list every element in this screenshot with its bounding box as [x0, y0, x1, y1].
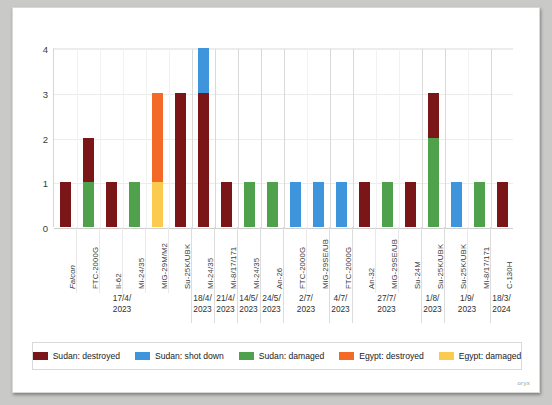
bar-mi-8-17-171[interactable] [221, 182, 232, 227]
y-axis-tick-label: 3 [43, 88, 54, 99]
bar-segment-sudan-damaged [382, 182, 393, 227]
bar-segment-sudan-destroyed [198, 93, 209, 227]
bar-segment-sudan-destroyed [405, 182, 416, 227]
category-separator [169, 49, 170, 228]
bar-segment-sudan-destroyed [497, 182, 508, 227]
bar-segment-sudan-shotdown [290, 182, 301, 227]
x-axis-tick-label: An-32 [367, 268, 376, 289]
date-group-label: 1/8/2023 [421, 293, 444, 314]
legend-item[interactable]: Egypt: destroyed [339, 351, 424, 361]
bar-segment-sudan-shotdown [313, 182, 324, 227]
date-group-day: 21/4/ [214, 293, 237, 304]
date-group-label: 1/9/2023 [444, 293, 490, 314]
bar-segment-egypt-destroyed [152, 93, 163, 183]
date-group-year: 2023 [444, 304, 490, 315]
date-group-label: 14/5/2023 [237, 293, 260, 314]
date-group-label: 27/7/2023 [352, 293, 421, 314]
legend-item[interactable]: Sudan: destroyed [33, 351, 120, 361]
legend-label: Egypt: destroyed [359, 351, 424, 361]
bar-falcon[interactable] [60, 182, 71, 227]
bar-su-25k-ubk[interactable] [175, 93, 186, 227]
bar-mi-24-35[interactable] [129, 182, 140, 227]
bar-segment-sudan-shotdown [336, 182, 347, 227]
bar-segment-egypt-damaged [152, 182, 163, 227]
y-axis-tick-label: 4 [43, 44, 54, 55]
date-group-year: 2023 [260, 304, 283, 315]
bar-segment-sudan-damaged [129, 182, 140, 227]
chart-canvas: 01234 FalconFTC-2000GIl-62Mi-24/35MiG-29… [20, 15, 534, 387]
date-group-day: 4/7/ [329, 293, 352, 304]
date-group-label: 24/5/2023 [260, 293, 283, 314]
bar-segment-sudan-damaged [474, 182, 485, 227]
date-group-day: 2/7/ [283, 293, 329, 304]
legend-item[interactable]: Egypt: damaged [439, 351, 522, 361]
legend-label: Sudan: destroyed [53, 351, 120, 361]
x-axis-group-labels: 17/4/202318/4/202321/4/202314/5/202324/5… [53, 293, 513, 323]
date-group-day: 14/5/ [237, 293, 260, 304]
bar-segment-sudan-destroyed [106, 182, 117, 227]
date-group-year: 2023 [283, 304, 329, 315]
legend-item[interactable]: Sudan: shot down [135, 351, 224, 361]
bar-an-32[interactable] [359, 182, 370, 227]
legend-swatch [33, 352, 48, 360]
date-group-year: 2023 [352, 304, 421, 315]
group-separator [491, 49, 492, 228]
date-group-label: 21/4/2023 [214, 293, 237, 314]
legend-swatch [339, 352, 354, 360]
group-separator [191, 227, 192, 323]
x-axis-tick-label: FTC-2000G [91, 247, 100, 289]
date-group-day: 24/5/ [260, 293, 283, 304]
group-separator [490, 227, 491, 323]
bar-c-130h[interactable] [497, 182, 508, 227]
bar-mig-29se-ub[interactable] [313, 182, 324, 227]
watermark-label: oryx [517, 380, 530, 386]
bar-segment-sudan-destroyed [175, 93, 186, 227]
legend-label: Sudan: shot down [155, 351, 224, 361]
date-group-year: 2024 [490, 304, 513, 315]
category-separator [376, 49, 377, 228]
chart-legend: Sudan: destroyedSudan: shot downSudan: d… [32, 342, 522, 370]
chart-card: 01234 FalconFTC-2000GIl-62Mi-24/35MiG-29… [12, 7, 540, 393]
bar-su-25k-ubk[interactable] [428, 93, 439, 227]
group-separator [422, 49, 423, 228]
date-group-year: 2023 [237, 304, 260, 315]
x-axis-tick-label: C-130H [505, 262, 514, 289]
bar-mig-29m-m2[interactable] [152, 93, 163, 227]
bar-su-25k-ubk[interactable] [451, 182, 462, 227]
group-separator [238, 49, 239, 228]
bar-mi-24-35[interactable] [244, 182, 255, 227]
bar-ftc-2000g[interactable] [83, 138, 94, 228]
legend-item[interactable]: Sudan: damaged [239, 351, 324, 361]
bar-segment-sudan-shotdown [451, 182, 462, 227]
bar-mi-24-35[interactable] [198, 48, 209, 227]
x-axis-tick-label: Su-25K/UBK [459, 244, 468, 289]
x-axis-tick-label: MiG-29SE/UB [390, 239, 399, 289]
group-separator [330, 49, 331, 228]
bar-su-24m[interactable] [405, 182, 416, 227]
group-separator [260, 227, 261, 323]
category-separator [399, 49, 400, 228]
date-group-label: 18/4/2023 [191, 293, 214, 314]
x-axis-tick-label: Mi-24/35 [137, 258, 146, 289]
bar-segment-sudan-destroyed [60, 182, 71, 227]
bar-ftc-2000g[interactable] [290, 182, 301, 227]
y-axis-tick-label: 1 [43, 178, 54, 189]
plot-area: 01234 [53, 48, 513, 227]
date-group-day: 18/3/ [490, 293, 513, 304]
bar-an-26[interactable] [267, 182, 278, 227]
date-group-label: 17/4/2023 [53, 293, 191, 314]
group-separator [237, 227, 238, 323]
group-separator [353, 49, 354, 228]
x-axis-tick-label: MiG-29M/M2 [160, 243, 169, 289]
bar-segment-sudan-destroyed [83, 138, 94, 183]
bar-ftc-2000g[interactable] [336, 182, 347, 227]
date-group-year: 2023 [191, 304, 214, 315]
bar-il-62[interactable] [106, 182, 117, 227]
group-separator [445, 49, 446, 228]
bar-mig-29se-ub[interactable] [382, 182, 393, 227]
bar-mi-8-17-171[interactable] [474, 182, 485, 227]
group-separator [283, 227, 284, 323]
bar-segment-sudan-damaged [83, 182, 94, 227]
category-separator [146, 49, 147, 228]
date-group-day: 1/9/ [444, 293, 490, 304]
